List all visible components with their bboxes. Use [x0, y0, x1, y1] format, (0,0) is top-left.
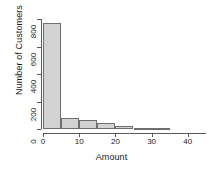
histogram-bar	[152, 128, 170, 130]
x-axis-line	[43, 133, 206, 134]
x-tick-label: 40	[176, 137, 200, 146]
histogram-chart: Number of Customers Amount 0200400600800…	[0, 0, 223, 174]
y-tick-mark	[37, 74, 41, 75]
y-tick-mark	[37, 129, 41, 130]
y-axis-line	[41, 19, 42, 129]
histogram-bar	[97, 123, 115, 129]
y-tick-mark	[37, 19, 41, 20]
y-tick-label: 200	[29, 101, 38, 127]
histogram-bar	[61, 118, 79, 129]
x-tick-label: 0	[31, 137, 55, 146]
histogram-bar	[79, 120, 97, 129]
y-tick-label: 400	[29, 74, 38, 100]
y-tick-mark	[37, 47, 41, 48]
y-tick-mark	[37, 102, 41, 103]
y-tick-label: 600	[29, 46, 38, 72]
y-tick-label: 800	[29, 19, 38, 45]
x-tick-label: 30	[140, 137, 164, 146]
histogram-bar	[115, 126, 133, 129]
x-tick-label: 20	[103, 137, 127, 146]
x-tick-label: 10	[67, 137, 91, 146]
histogram-bar	[43, 23, 61, 129]
histogram-bar	[134, 128, 152, 130]
y-axis-title: Number of Customers	[14, 0, 24, 110]
